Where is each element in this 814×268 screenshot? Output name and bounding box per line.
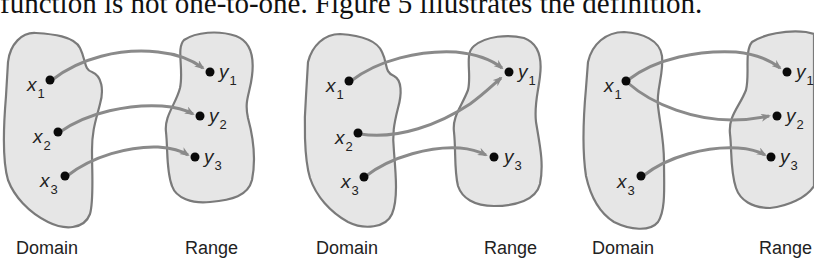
range-set-shape bbox=[454, 36, 542, 206]
panel-1-one-to-one: x1 x2 x3 y1 y2 y3 Domain Range bbox=[4, 33, 254, 258]
range-point-label: y bbox=[502, 146, 515, 167]
domain-point bbox=[345, 77, 354, 86]
range-point bbox=[783, 68, 792, 77]
domain-point-label: x bbox=[325, 75, 337, 96]
domain-point-label: x bbox=[340, 171, 352, 192]
panel-3-not-a-function: x1 x3 y1 y2 y3 Domain Range bbox=[584, 31, 814, 258]
range-point-label: y bbox=[784, 105, 797, 126]
range-label: Range bbox=[484, 238, 537, 258]
domain-point bbox=[61, 172, 70, 181]
range-point-label: y bbox=[202, 146, 215, 167]
domain-point-label: x bbox=[39, 170, 51, 191]
figure-5-diagram: x1 x2 x3 y1 y2 y3 Domain Range x1 x2 x3 … bbox=[0, 0, 814, 268]
domain-point bbox=[54, 128, 63, 137]
range-point bbox=[773, 112, 782, 121]
range-label: Range bbox=[759, 238, 812, 258]
range-point-label: y bbox=[217, 61, 230, 82]
domain-point bbox=[637, 172, 646, 181]
domain-point-label: x bbox=[603, 75, 615, 96]
range-point-label: y bbox=[516, 61, 529, 82]
domain-point bbox=[46, 76, 55, 85]
range-point bbox=[490, 153, 499, 162]
domain-point-label: x bbox=[334, 127, 346, 148]
domain-label: Domain bbox=[592, 238, 654, 258]
range-point bbox=[206, 68, 215, 77]
range-point-label: y bbox=[794, 61, 807, 82]
domain-label: Domain bbox=[316, 238, 378, 258]
range-label: Range bbox=[185, 238, 238, 258]
range-point-label: y bbox=[778, 146, 791, 167]
range-point bbox=[196, 112, 205, 121]
domain-set-shape bbox=[584, 32, 665, 229]
domain-point bbox=[354, 129, 363, 138]
domain-point-label: x bbox=[26, 74, 38, 95]
domain-point-label: x bbox=[616, 171, 628, 192]
range-point-label: y bbox=[207, 105, 220, 126]
domain-label: Domain bbox=[16, 238, 78, 258]
range-point bbox=[505, 68, 514, 77]
range-point bbox=[767, 153, 776, 162]
range-point bbox=[191, 153, 200, 162]
panel-2-not-one-to-one: x1 x2 x3 y1 y3 Domain Range bbox=[305, 34, 542, 258]
domain-point bbox=[622, 77, 631, 86]
domain-point-label: x bbox=[32, 126, 44, 147]
domain-point bbox=[360, 173, 369, 182]
